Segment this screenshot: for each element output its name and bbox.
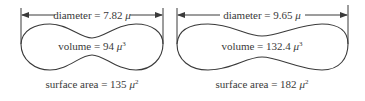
cell-right: diameter = 9.65 μ volume = 132.4 μ3 surf… [177, 5, 348, 90]
red-blood-cell-diagram: diameter = 7.82 μ volume = 94 μ3 surface… [0, 0, 365, 101]
volume-label: volume = 94 μ3 [58, 40, 126, 52]
diameter-label: diameter = 7.82 μ [53, 9, 131, 21]
cell-left: diameter = 7.82 μ volume = 94 μ3 surface… [21, 8, 163, 90]
volume-label: volume = 132.4 μ3 [221, 40, 303, 52]
surface-area-label: surface area = 135 μ2 [46, 78, 139, 90]
surface-area-label: surface area = 182 μ2 [216, 78, 309, 90]
diameter-label: diameter = 9.65 μ [223, 9, 301, 21]
